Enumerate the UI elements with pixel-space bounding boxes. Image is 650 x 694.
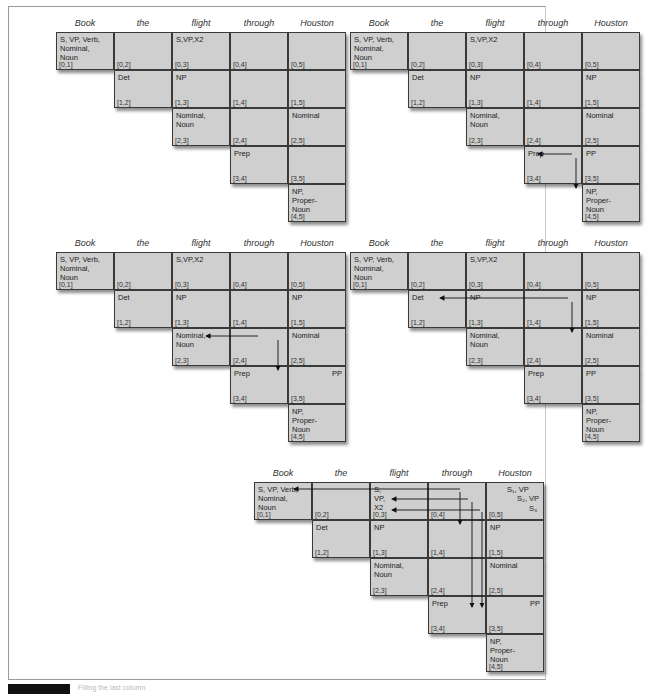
cell-index: [0,1] bbox=[59, 61, 73, 68]
cell-1-2: Det[1,2] bbox=[114, 290, 172, 328]
cell-0-2: [0,2] bbox=[312, 482, 370, 520]
word-houston: Houston bbox=[582, 18, 640, 28]
word-the: the bbox=[408, 238, 466, 248]
cell-label: PP bbox=[586, 369, 596, 378]
cell-label: Nominal, Noun bbox=[470, 331, 500, 349]
cell-1-5: NP[1,5] bbox=[288, 290, 346, 328]
word-through: through bbox=[524, 238, 582, 248]
cell-index: [3,5] bbox=[585, 175, 599, 182]
cell-4-5: NP, Proper- Noun[4,5] bbox=[288, 404, 346, 442]
cell-0-1: S, VP, Verb, Nominal, Noun[0,1] bbox=[350, 32, 408, 70]
cell-index: [1,5] bbox=[489, 549, 503, 556]
cell-index: [2,4] bbox=[431, 587, 445, 594]
cell-3-4: Prep[3,4] bbox=[230, 146, 288, 184]
cell-label: Nominal bbox=[292, 111, 320, 120]
cell-index: [2,4] bbox=[233, 357, 247, 364]
cell-index: [0,4] bbox=[233, 281, 247, 288]
cell-index: [1,2] bbox=[117, 319, 131, 326]
word-through: through bbox=[524, 18, 582, 28]
cell-1-3: NP[1,3] bbox=[466, 70, 524, 108]
cell-0-5: [0,5] bbox=[288, 252, 346, 290]
cell-1-3: NP[1,3] bbox=[172, 290, 230, 328]
cell-index: [4,5] bbox=[585, 433, 599, 440]
word-the: the bbox=[408, 18, 466, 28]
word-flight: flight bbox=[172, 238, 230, 248]
cky-chart-panel-1: BooktheflightthroughHoustonS, VP, Verb, … bbox=[56, 18, 296, 248]
cell-1-5: [1,5] bbox=[288, 70, 346, 108]
cell-0-5: [0,5] bbox=[582, 32, 640, 70]
cell-2-5: Nominal[2,5] bbox=[486, 558, 544, 596]
cell-label: PP bbox=[332, 369, 342, 378]
cell-2-5: Nominal[2,5] bbox=[582, 108, 640, 146]
cell-index: [2,4] bbox=[233, 137, 247, 144]
cell-2-4: [2,4] bbox=[230, 108, 288, 146]
cell-1-2: Det[1,2] bbox=[408, 70, 466, 108]
cell-0-5: [0,5] bbox=[582, 252, 640, 290]
cell-index: [0,5] bbox=[585, 61, 599, 68]
cell-index: [0,3] bbox=[175, 281, 189, 288]
cell-index: [1,4] bbox=[527, 319, 541, 326]
cell-index: [1,3] bbox=[175, 99, 189, 106]
cell-index: [1,3] bbox=[373, 549, 387, 556]
cell-index: [1,4] bbox=[431, 549, 445, 556]
word-houston: Houston bbox=[486, 468, 544, 478]
word-header: BooktheflightthroughHouston bbox=[350, 238, 650, 252]
cell-index: [2,3] bbox=[469, 137, 483, 144]
cell-3-4: Prep[3,4] bbox=[428, 596, 486, 634]
caption-label bbox=[8, 684, 70, 694]
cell-index: [0,3] bbox=[373, 511, 387, 518]
cell-1-2: Det[1,2] bbox=[408, 290, 466, 328]
cell-index: [1,5] bbox=[585, 99, 599, 106]
cell-index: [1,2] bbox=[117, 99, 131, 106]
cell-index: [0,1] bbox=[353, 61, 367, 68]
cell-1-3: NP[1,3] bbox=[172, 70, 230, 108]
caption-text: Filling the last column bbox=[78, 684, 538, 694]
cell-label: Det bbox=[412, 293, 424, 302]
cell-index: [3,5] bbox=[585, 395, 599, 402]
cell-3-5: PP[3,5] bbox=[582, 366, 640, 404]
word-header: BooktheflightthroughHouston bbox=[56, 18, 356, 32]
word-houston: Houston bbox=[288, 18, 346, 28]
cell-1-5: NP[1,5] bbox=[582, 70, 640, 108]
cell-0-2: [0,2] bbox=[114, 252, 172, 290]
span-label-s2: S₂, VP bbox=[517, 494, 539, 503]
cell-index: [1,5] bbox=[585, 319, 599, 326]
cell-label: Prep bbox=[528, 149, 544, 158]
cell-3-4: Prep[3,4] bbox=[230, 366, 288, 404]
cky-chart-panel-2: BooktheflightthroughHoustonS, VP, Verb, … bbox=[350, 18, 590, 248]
cell-label: Det bbox=[118, 293, 130, 302]
cell-index: [1,2] bbox=[315, 549, 329, 556]
cky-chart-panel-3: BooktheflightthroughHoustonS, VP, Verb, … bbox=[56, 238, 296, 468]
cell-2-4: [2,4] bbox=[524, 108, 582, 146]
word-flight: flight bbox=[466, 238, 524, 248]
cell-label: S, VP, Verb, Nominal, Noun bbox=[354, 35, 394, 62]
cell-label: Prep bbox=[234, 369, 250, 378]
cell-label: S, VP, X2 bbox=[374, 485, 385, 512]
cell-index: [1,2] bbox=[411, 99, 425, 106]
cell-2-4: [2,4] bbox=[428, 558, 486, 596]
cell-1-3: NP[1,3] bbox=[370, 520, 428, 558]
cell-label: PP bbox=[530, 599, 540, 608]
word-book: Book bbox=[254, 468, 312, 478]
cell-label: NP, Proper- Noun bbox=[292, 187, 317, 214]
cell-0-4: [0,4] bbox=[428, 482, 486, 520]
cell-2-3: Nominal, Noun[2,3] bbox=[466, 328, 524, 366]
cell-0-1: S, VP, Verb, Nominal, Noun[0,1] bbox=[254, 482, 312, 520]
cell-index: [3,4] bbox=[527, 175, 541, 182]
cell-label: S, VP, Verb, Nominal, Noun bbox=[60, 255, 100, 282]
cell-3-5: PP[3,5] bbox=[486, 596, 544, 634]
cell-0-3: S, VP, X2[0,3] bbox=[370, 482, 428, 520]
cell-label: S,VP,X2 bbox=[176, 255, 203, 264]
cell-index: [0,4] bbox=[527, 61, 541, 68]
cell-index: [0,2] bbox=[117, 61, 131, 68]
cell-4-5: NP, Proper- Noun[4,5] bbox=[582, 404, 640, 442]
cell-index: [2,4] bbox=[527, 357, 541, 364]
cell-label: Nominal bbox=[490, 561, 518, 570]
cell-label: NP, Proper- Noun bbox=[586, 187, 611, 214]
cell-label: Nominal, Noun bbox=[176, 331, 206, 349]
cell-index: [0,2] bbox=[411, 61, 425, 68]
cell-label: Prep bbox=[234, 149, 250, 158]
cell-label: Nominal, Noun bbox=[374, 561, 404, 579]
cell-1-5: NP[1,5] bbox=[582, 290, 640, 328]
word-houston: Houston bbox=[288, 238, 346, 248]
